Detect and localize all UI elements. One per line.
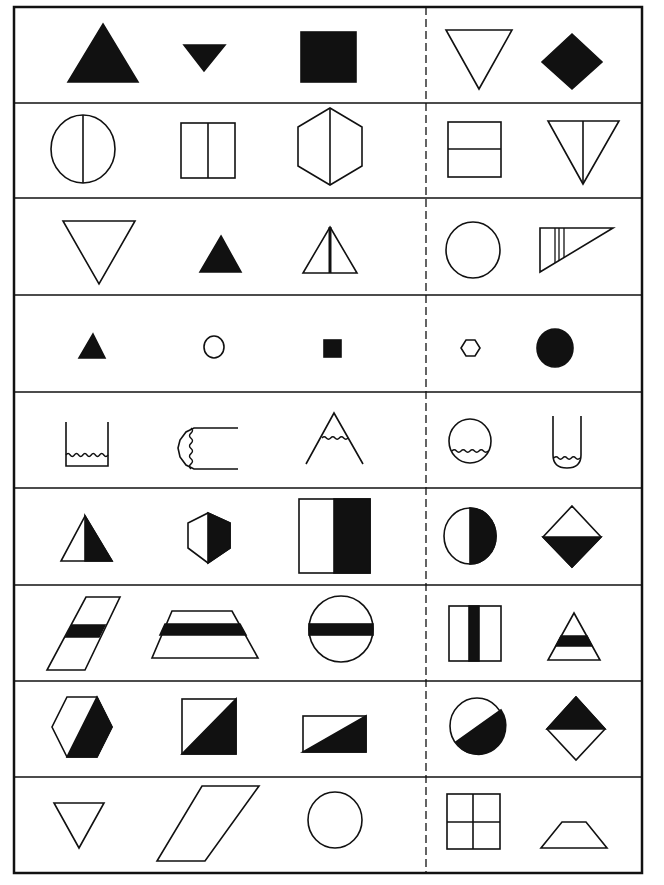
right-group-shape-square: [447, 794, 500, 849]
solid-triangle-up: [200, 236, 241, 272]
wavy-liquid-line: [190, 428, 193, 469]
wavy-liquid-line: [554, 457, 580, 460]
left-group-shape-ellipse: [308, 792, 362, 848]
right-group-shape-right-triangle: [540, 228, 613, 272]
shape-row: [47, 596, 600, 670]
horizontal-band: [66, 625, 105, 637]
cup-outline: [66, 422, 108, 466]
small-hexagon-outline: [461, 340, 480, 356]
outline-triangle-down: [446, 30, 512, 89]
left-group-shape-hexagon: [52, 697, 112, 757]
left-group-shape-square: [182, 699, 236, 754]
right-group-shape-circle: [449, 419, 491, 463]
small-solid-square: [324, 340, 341, 357]
filled-right-half: [85, 516, 112, 561]
left-group-shape-triangle-up: [303, 227, 357, 273]
filled-top-half: [547, 697, 605, 729]
horizontal-band: [556, 636, 592, 646]
right-group-shape-diamond: [542, 34, 602, 89]
filled-right-half: [208, 513, 230, 563]
left-group-shape-ellipse: [309, 596, 373, 662]
small-circle-outline: [204, 336, 224, 358]
left-group-shape-rectangle: [181, 123, 235, 178]
left-group-shape-triangle-down: [63, 221, 135, 284]
left-group-shape-rectangle: [301, 32, 356, 82]
filled-right-half: [470, 508, 496, 564]
horizontal-band: [309, 624, 373, 635]
test-tube-outline: [553, 416, 581, 468]
outline-triangle-down: [63, 221, 135, 284]
left-group-shape-triangle-up: [61, 516, 112, 561]
right-group-shape-triangle-down: [446, 30, 512, 89]
left-group-shape-tube-sideways: [178, 428, 238, 469]
right-triangle-outline: [540, 228, 613, 272]
solid-circle: [537, 329, 573, 367]
right-group-shape-hexagon: [461, 340, 480, 356]
shape-row: [66, 413, 581, 469]
solid-rectangle: [301, 32, 356, 82]
open-triangle-outline: [306, 413, 363, 464]
shape-row: [68, 24, 602, 89]
right-group-shape-ellipse: [446, 222, 500, 278]
left-group-shape-hexagon: [298, 108, 362, 185]
right-group-shape-triangle-down: [548, 121, 619, 184]
right-group-shape-ellipse: [444, 508, 496, 564]
shape-row: [79, 329, 573, 367]
shape-row: [51, 108, 619, 185]
left-group-shape-square: [324, 340, 341, 357]
shape-cells: [47, 24, 619, 861]
left-group-shape-rectangle: [303, 716, 366, 752]
wavy-liquid-line: [66, 454, 108, 457]
left-group-shape-parallelogram: [47, 597, 120, 670]
shape-row: [52, 697, 605, 760]
left-group-shape-triangle-up: [68, 24, 138, 82]
tube-outline: [178, 428, 238, 469]
left-group-shape-ellipse: [51, 115, 115, 183]
right-group-shape-triangle-up: [548, 613, 600, 660]
right-group-shape-diamond: [543, 506, 601, 567]
shape-grid: [0, 0, 664, 885]
left-group-shape-ellipse: [204, 336, 224, 358]
left-group-shape-trapezoid: [152, 611, 258, 658]
solid-triangle-down: [184, 45, 225, 71]
vertical-band: [469, 606, 479, 661]
right-group-shape-ellipse: [537, 329, 573, 367]
horizontal-band: [160, 624, 246, 635]
shape-worksheet: [0, 0, 664, 885]
circle-outline: [449, 419, 491, 463]
left-group-shape-open-triangle: [306, 413, 363, 464]
left-group-shape-rectangle: [299, 499, 370, 573]
shape-row: [54, 786, 607, 861]
filled-bottom-half: [543, 537, 601, 567]
left-group-shape-parallelogram: [157, 786, 259, 861]
right-group-shape-trapezoid: [541, 822, 607, 848]
outline-trapezoid: [541, 822, 607, 848]
outline-triangle-down: [54, 803, 104, 848]
outline-parallelogram: [157, 786, 259, 861]
left-group-shape-hexagon: [188, 513, 230, 563]
left-group-shape-cup-square: [66, 422, 108, 466]
small-solid-triangle: [79, 334, 105, 358]
wavy-liquid-line: [322, 437, 348, 440]
left-group-shape-triangle-up: [200, 236, 241, 272]
shape-row: [61, 499, 601, 573]
solid-triangle-up: [68, 24, 138, 82]
outline-ellipse: [308, 792, 362, 848]
solid-diamond: [542, 34, 602, 89]
right-group-shape-square: [448, 122, 501, 177]
filled-right-half: [334, 499, 370, 573]
shape-row: [63, 221, 613, 284]
left-group-shape-triangle-down-small: [184, 45, 225, 71]
right-group-shape-square: [449, 606, 501, 661]
right-group-shape-test-tube: [553, 416, 581, 468]
left-group-shape-triangle-down: [54, 803, 104, 848]
right-group-shape-ellipse: [450, 698, 506, 754]
right-group-shape-diamond: [547, 697, 605, 760]
left-group-shape-triangle-up: [79, 334, 105, 358]
circle-outline: [446, 222, 500, 278]
